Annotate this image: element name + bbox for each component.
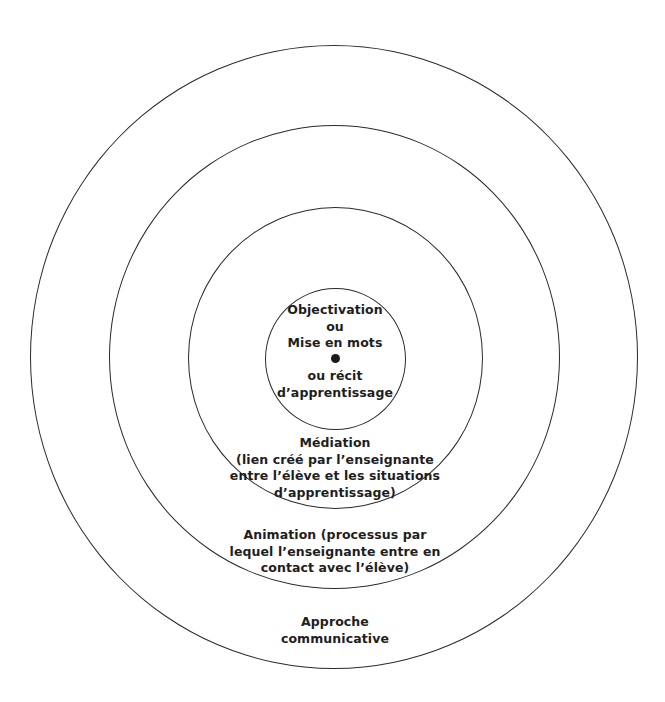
label-line: ou récit xyxy=(0,368,665,385)
label-line: Objectivation xyxy=(0,302,665,319)
label-line: Mise en mots xyxy=(0,335,665,352)
label-line: lequel l’enseignante entre en xyxy=(0,544,665,561)
approche-communicative-label: Approche communicative xyxy=(0,614,665,647)
label-line: communicative xyxy=(0,631,665,648)
animation-label: Animation (processus par lequel l’enseig… xyxy=(0,527,665,577)
label-line: d’apprentissage xyxy=(0,385,665,402)
label-line: Médiation xyxy=(0,435,665,452)
label-line: d’apprentissage) xyxy=(0,485,665,502)
label-line: contact avec l’élève) xyxy=(0,560,665,577)
center-dot-icon xyxy=(331,354,340,363)
label-line: ou xyxy=(0,319,665,336)
label-line: (lien créé par l’enseignante xyxy=(0,452,665,469)
label-line: Approche xyxy=(0,614,665,631)
label-line: Animation (processus par xyxy=(0,527,665,544)
label-line: entre l’élève et les situations xyxy=(0,468,665,485)
objectivation-label-bottom: ou récit d’apprentissage xyxy=(0,368,665,401)
mediation-label: Médiation (lien créé par l’enseignante e… xyxy=(0,435,665,501)
objectivation-label-top: Objectivation ou Mise en mots xyxy=(0,302,665,352)
concentric-circles-diagram: Objectivation ou Mise en mots ou récit d… xyxy=(0,0,665,702)
